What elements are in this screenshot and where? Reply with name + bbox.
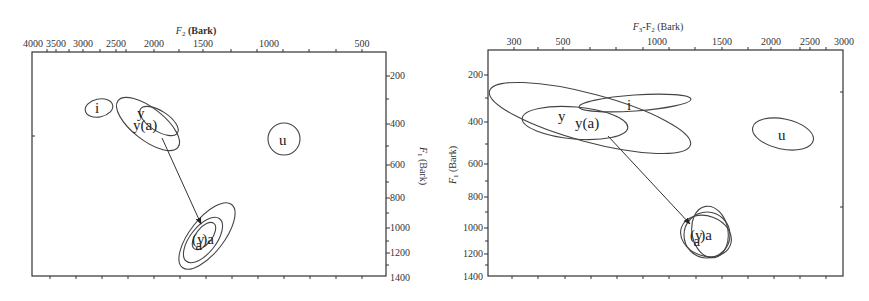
right-x-tick-labels: 300 500 1000 1500 2000 2500 3000 <box>507 36 855 47</box>
svg-text:2000: 2000 <box>761 36 781 47</box>
svg-text:300: 300 <box>507 36 522 47</box>
svg-text:2500: 2500 <box>800 36 820 47</box>
svg-text:1200: 1200 <box>463 248 483 259</box>
svg-text:600: 600 <box>468 158 483 169</box>
svg-text:1200: 1200 <box>390 247 410 258</box>
svg-text:2500: 2500 <box>106 38 126 49</box>
left-x-axis-title: F2 (Bark) <box>175 25 216 38</box>
left-label-yaa: (ya)a <box>192 231 214 253</box>
left-x-tick-labels: 4000 3500 3000 2500 2000 1500 1000 500 <box>23 38 370 49</box>
svg-text:2000: 2000 <box>144 38 164 49</box>
right-y-axis-title: F1 (Bark) <box>447 146 460 185</box>
left-chart: F2 (Bark) 4000 3500 3000 2500 2000 1500 … <box>23 25 429 283</box>
right-label-yaa: (ya)a <box>690 227 712 249</box>
svg-text:3000: 3000 <box>834 36 854 47</box>
left-y-tick-labels: 200 400 600 800 1000 1200 1400 <box>390 70 410 283</box>
svg-text:3000: 3000 <box>73 38 93 49</box>
svg-text:200: 200 <box>390 70 405 81</box>
svg-text:4000: 4000 <box>23 38 43 49</box>
svg-text:500: 500 <box>355 38 370 49</box>
figure: F2 (Bark) 4000 3500 3000 2500 2000 1500 … <box>0 0 869 301</box>
right-label-y: y <box>558 108 566 124</box>
svg-text:3500: 3500 <box>46 38 66 49</box>
svg-text:1400: 1400 <box>463 271 483 282</box>
svg-text:1000: 1000 <box>390 222 410 233</box>
svg-text:1000: 1000 <box>259 38 279 49</box>
right-y-tick-labels: 200 400 600 800 1000 1200 1400 <box>463 69 483 282</box>
svg-text:600: 600 <box>390 159 405 170</box>
left-label-u: u <box>279 132 287 148</box>
svg-text:500: 500 <box>556 36 571 47</box>
svg-text:400: 400 <box>390 118 405 129</box>
left-label-ya: y(a) <box>133 117 157 134</box>
svg-text:1000: 1000 <box>647 36 667 47</box>
svg-text:400: 400 <box>468 116 483 127</box>
right-x-ticks <box>512 47 843 279</box>
right-label-i: i <box>627 97 631 113</box>
svg-text:1000: 1000 <box>463 222 483 233</box>
left-arrow <box>162 138 201 224</box>
svg-text:800: 800 <box>468 191 483 202</box>
right-x-axis-title: F3-F2 (Bark) <box>632 21 684 34</box>
left-y-axis-title: F1 (Bark) <box>416 146 429 185</box>
svg-text:800: 800 <box>390 192 405 203</box>
svg-text:200: 200 <box>468 69 483 80</box>
left-label-i: i <box>95 100 99 116</box>
right-arrow <box>608 136 690 224</box>
svg-text:1500: 1500 <box>193 38 213 49</box>
right-chart: F3-F2 (Bark) 300 500 1000 1500 2000 2500… <box>447 21 854 282</box>
svg-text:1400: 1400 <box>390 272 410 283</box>
right-label-u: u <box>778 127 786 143</box>
svg-text:1500: 1500 <box>712 36 732 47</box>
right-label-ya: y(a) <box>575 115 599 132</box>
